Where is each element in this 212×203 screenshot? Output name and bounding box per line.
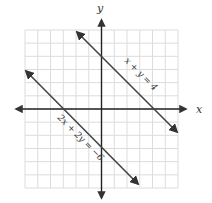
line-2x-plus-2y-eq-neg6	[26, 71, 138, 184]
y-axis-label: y	[96, 2, 104, 15]
line-label-2: 2x + 2y = −6	[55, 112, 106, 163]
coordinate-plane: x y x + y = 4 2x + 2y = −6	[0, 0, 212, 203]
x-axis-label: x	[196, 103, 203, 116]
line-label-1: x + y = 4	[123, 55, 160, 92]
